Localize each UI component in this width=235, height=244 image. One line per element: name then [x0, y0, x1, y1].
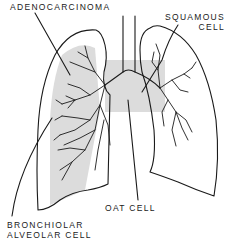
leader-adenocarcinoma: [35, 13, 70, 75]
peripheral-shade: [50, 45, 100, 205]
label-squamous-line1: SQUAMOUS: [165, 12, 225, 22]
left-lung-outline: [140, 26, 218, 196]
label-squamous-line2: CELL: [165, 22, 225, 32]
label-adenocarcinoma: ADENOCARCINOMA: [10, 2, 110, 12]
label-bronchiolar-line1: BRONCHIOLAR: [7, 220, 92, 230]
label-bronchiolar-line2: ALVEOLAR CELL: [7, 230, 92, 240]
label-oat-cell: OAT CELL: [105, 203, 156, 213]
leader-oat-cell: [128, 100, 138, 200]
label-squamous-cell: SQUAMOUS CELL: [165, 12, 225, 32]
leader-bronchiolar: [12, 118, 52, 216]
label-bronchiolar-alveolar-cell: BRONCHIOLAR ALVEOLAR CELL: [7, 220, 92, 240]
